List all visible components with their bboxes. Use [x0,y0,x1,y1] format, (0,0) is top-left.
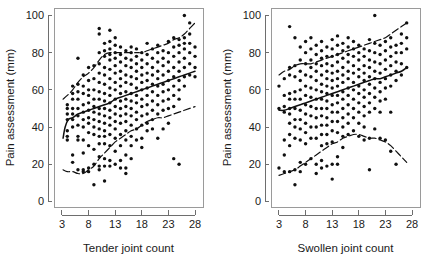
data-point [66,138,69,141]
data-point [331,86,334,89]
data-point [331,120,334,123]
data-point [368,66,371,69]
data-point [140,105,143,108]
data-point [277,84,280,87]
y-tick-label: 0 [38,195,44,207]
data-point [331,64,334,67]
y-tick-label: 60 [32,84,44,96]
data-point [119,144,122,147]
data-point [124,120,127,123]
x-tick-label: 18 [353,218,365,230]
data-point [389,55,392,58]
data-point [151,90,154,93]
data-point [103,73,106,76]
data-point [352,97,355,100]
data-point [103,122,106,125]
data-point [177,44,180,47]
data-point [108,164,111,167]
x-axis-title: Tender joint count [83,242,175,254]
data-point [156,112,159,115]
data-point [325,77,328,80]
data-point [336,94,339,97]
data-point [140,73,143,76]
data-point [346,77,349,80]
data-point [124,57,127,60]
y-tick-label: 80 [32,47,44,59]
data-point [145,71,148,74]
data-point [103,142,106,145]
data-point [156,60,159,63]
data-point [135,86,138,89]
data-point [87,88,90,91]
x-tick-label: 8 [86,218,92,230]
data-point [357,92,360,95]
data-point [325,142,328,145]
data-point [108,58,111,61]
data-point [315,172,318,175]
data-point [336,131,339,134]
data-point [129,114,132,117]
data-point [114,36,117,39]
data-point [167,60,170,63]
data-point [352,71,355,74]
data-point [161,49,164,52]
data-point [167,122,170,125]
curve-lower-quantile [279,134,407,175]
data-point [145,42,148,45]
data-point [336,110,339,113]
data-point [405,47,408,50]
data-point [140,146,143,149]
data-point [309,105,312,108]
data-point [103,179,106,182]
data-point [304,84,307,87]
data-point [384,86,387,89]
data-point [336,44,339,47]
data-point [352,88,355,91]
data-point [325,107,328,110]
data-point [352,107,355,110]
data-point [108,159,111,162]
data-point [98,164,101,167]
data-point [373,107,376,110]
data-point [188,21,191,24]
data-point [293,90,296,93]
data-point [336,70,339,73]
data-point [119,45,122,48]
data-point [108,47,111,50]
data-point [177,79,180,82]
data-point [129,75,132,78]
data-point [320,144,323,147]
data-point [400,42,403,45]
data-point [331,71,334,74]
data-point [283,153,286,156]
data-point [98,90,101,93]
data-point [309,58,312,61]
x-axis: 3813182328 [59,210,201,230]
data-point [145,112,148,115]
data-point [76,107,79,110]
data-point [92,148,95,151]
data-point [331,163,334,166]
data-point [362,71,365,74]
data-point [92,183,95,186]
x-tick-label: 13 [109,218,121,230]
data-point [384,97,387,100]
data-point [98,120,101,123]
data-point [378,110,381,113]
data-point [373,70,376,73]
x-tick-label: 3 [276,218,282,230]
y-tick-label: 20 [249,158,261,170]
data-point [325,116,328,119]
data-point [368,75,371,78]
data-point [320,114,323,117]
data-point [66,103,69,106]
data-point [108,40,111,43]
data-point [66,135,69,138]
data-point [336,77,339,80]
data-point [309,36,312,39]
data-point [325,84,328,87]
data-point [331,129,334,132]
x-tick-label: 13 [326,218,338,230]
data-point [346,94,349,97]
data-point [368,49,371,52]
